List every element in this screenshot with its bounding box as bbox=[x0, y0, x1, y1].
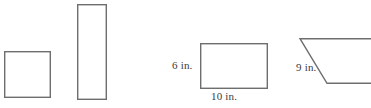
square-shape bbox=[5, 52, 51, 98]
trapezoid-slant-label: 9 in. bbox=[296, 62, 317, 73]
rectangle-width-label: 10 in. bbox=[211, 91, 237, 102]
labeled-rectangle-shape bbox=[201, 44, 268, 89]
geometry-figures-svg bbox=[0, 0, 371, 108]
rectangle-height-label: 6 in. bbox=[172, 60, 193, 71]
figure-canvas: 6 in. 10 in. 9 in. bbox=[0, 0, 371, 108]
tall-rectangle-shape bbox=[78, 5, 107, 100]
